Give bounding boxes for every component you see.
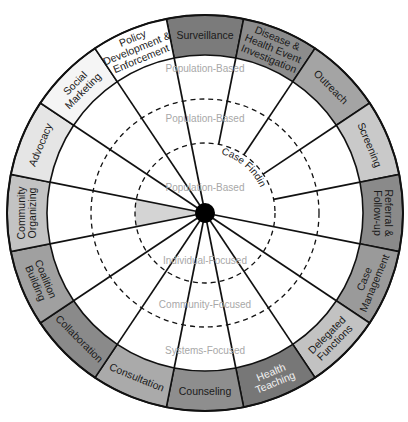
segment-label-group: CommunityOrganizing (15, 186, 38, 240)
level-label-population-inner: Population-Based (166, 182, 245, 193)
level-label-individual-focused: Individual-Focused (163, 255, 247, 266)
center-hub (195, 203, 215, 223)
segment-label: Counseling (179, 385, 232, 397)
level-label-population-outer: Population-Based (166, 63, 245, 74)
level-label-community-focused: Community-Focused (159, 299, 251, 310)
segment-label: Surveillance (176, 29, 233, 41)
segment-label-group: Surveillance (176, 29, 233, 41)
segment-label: Organizing (26, 187, 38, 238)
segment-label-group: Referral &Follow-up (372, 189, 395, 236)
segment-label: Follow-up (372, 190, 384, 236)
level-label-systems-focused: Systems-Focused (165, 345, 245, 356)
level-label-population-middle: Population-Based (166, 113, 245, 124)
segment-label-group: Counseling (179, 385, 232, 397)
public-health-intervention-wheel: SurveillanceDisease &Health EventInvesti… (0, 0, 408, 422)
